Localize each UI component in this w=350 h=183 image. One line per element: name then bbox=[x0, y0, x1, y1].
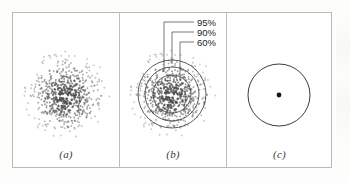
contour-label-60: 60% bbox=[197, 37, 216, 48]
scatter-plot-a bbox=[13, 12, 119, 168]
ideal-circle-plot-c bbox=[227, 12, 332, 168]
panel-c-label: (c) bbox=[227, 148, 332, 160]
center-point bbox=[277, 93, 282, 98]
point-cloud bbox=[129, 50, 216, 137]
panel-a-label: (a) bbox=[13, 148, 119, 160]
scan-edge-artifact bbox=[336, 18, 350, 164]
figure-container: (a) (b) (c) 95% 90% 60% bbox=[0, 0, 350, 183]
panel-a: (a) bbox=[13, 12, 119, 168]
panel-b-label: (b) bbox=[120, 148, 226, 160]
panel-c: (c) bbox=[227, 12, 332, 168]
point-cloud bbox=[23, 51, 110, 138]
